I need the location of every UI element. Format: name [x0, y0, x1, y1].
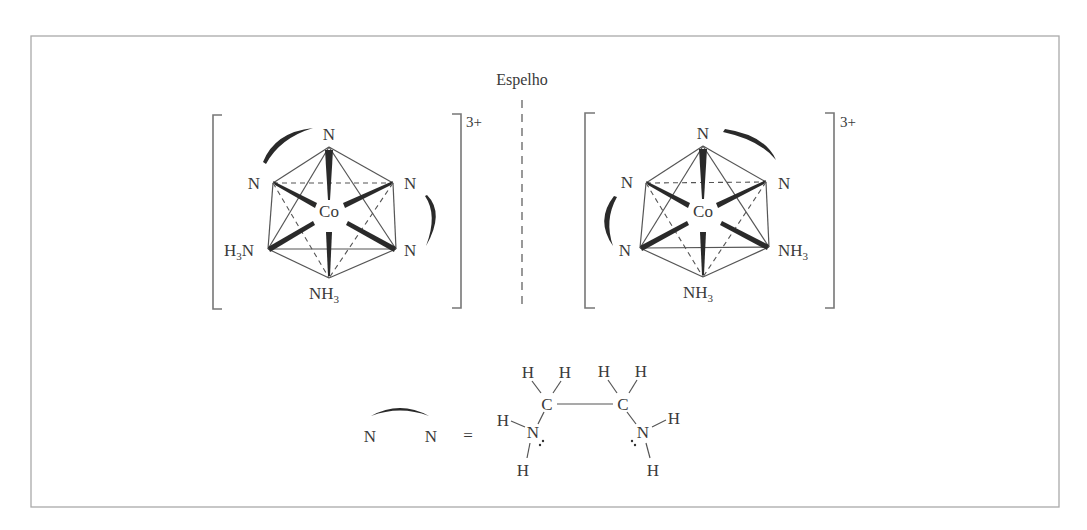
left-ligand-top: N	[323, 125, 335, 144]
left-ligand-lower-right: N	[404, 241, 416, 260]
mirror-plane: Espelho	[496, 71, 548, 308]
carbon-left: C	[541, 395, 552, 414]
left-ligand-lower-left: H3N	[224, 241, 254, 262]
h-n2-a: H	[668, 409, 680, 428]
right-en-arc-left	[604, 196, 617, 246]
h-c1-a: H	[522, 363, 534, 382]
left-ligand-upper-left: N	[248, 174, 260, 193]
legend-bidentate-arc	[371, 408, 429, 416]
h-c2-b: H	[635, 362, 647, 381]
left-bracket-open	[213, 115, 222, 309]
h-c2-a: H	[598, 362, 610, 381]
nitrogen-left: N	[527, 423, 539, 442]
right-ligand-upper-left: N	[621, 173, 633, 192]
right-ligand-top: N	[697, 124, 709, 143]
h-n2-b: H	[647, 461, 659, 480]
nitrogen-right: N	[637, 423, 649, 442]
right-complex: 3+ Co N N N N NH3	[585, 113, 856, 308]
svg-text:NH3: NH3	[309, 284, 340, 305]
svg-text:NH3: NH3	[778, 241, 809, 262]
right-en-arc-top	[723, 129, 776, 160]
right-ligand-upper-right: N	[778, 174, 790, 193]
figure-canvas: Espelho 3+	[0, 0, 1087, 530]
left-charge: 3+	[466, 114, 482, 130]
left-ligand-bottom: NH3	[309, 284, 340, 305]
ethylenediamine-legend: N N = C C H H H H N H H	[364, 362, 680, 480]
left-ligand-upper-right: N	[404, 174, 416, 193]
right-bracket-close	[825, 113, 834, 308]
right-metal-co: Co	[693, 202, 713, 221]
legend-equals: =	[463, 426, 473, 445]
legend-n-left: N	[364, 427, 376, 446]
ethylenediamine-structure: C C H H H H N H H N H	[497, 362, 680, 480]
svg-text:NH3: NH3	[683, 283, 714, 304]
h-n1-b: H	[517, 461, 529, 480]
h-c1-b: H	[559, 363, 571, 382]
left-en-arc-right	[425, 195, 436, 246]
carbon-right: C	[617, 395, 628, 414]
svg-text:H3N: H3N	[224, 241, 254, 262]
right-charge: 3+	[840, 114, 856, 130]
mirror-label: Espelho	[496, 71, 548, 89]
left-metal-co: Co	[319, 202, 339, 221]
left-en-arc-top	[263, 128, 313, 164]
left-complex: 3+ Co N N N	[213, 114, 482, 309]
right-ligand-lower-left: N	[619, 241, 631, 260]
left-bracket-close	[452, 114, 461, 308]
legend-n-right: N	[425, 427, 437, 446]
h-n1-a: H	[497, 411, 509, 430]
right-ligand-lower-right: NH3	[778, 241, 809, 262]
figure-frame	[31, 36, 1059, 507]
right-ligand-bottom: NH3	[683, 283, 714, 304]
right-bracket-open	[585, 113, 595, 308]
